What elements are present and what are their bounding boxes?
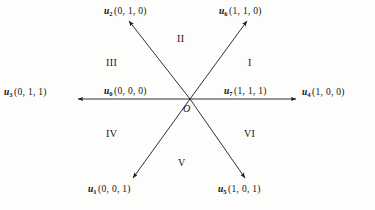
vector-symbol-u6: u6 [219, 6, 228, 16]
vector-label-u4: u4(1, 0, 0) [302, 88, 345, 98]
vector-subscript-u7: 7 [229, 90, 232, 97]
vector-label-u5: u5(1, 0, 1) [218, 185, 261, 195]
vector-label-u3: u3(0, 1, 1) [4, 88, 47, 98]
sector-label-6: VI [244, 128, 255, 139]
vector-symbol-u4: u4 [302, 87, 311, 97]
vector-symbol-u1: u1 [88, 184, 97, 194]
vector-symbol-u0: u0 [104, 86, 113, 96]
sector-label-3: III [106, 57, 117, 68]
vector-label-u1: u1(0, 0, 1) [88, 185, 131, 195]
vector-coords-u1: (0, 0, 1) [98, 184, 131, 194]
vector-symbol-u3: u3 [4, 87, 13, 97]
sector-label-5: V [178, 157, 186, 168]
vector-coords-u5: (1, 0, 1) [228, 184, 261, 194]
sector-label-1: I [248, 57, 252, 68]
vector-label-u0: u0(0, 0, 0) [104, 87, 147, 97]
vector-subscript-u1: 1 [93, 188, 96, 195]
vector-symbol-u2: u2 [104, 6, 113, 16]
vector-coords-u3: (0, 1, 1) [14, 87, 47, 97]
vector-subscript-u2: 2 [109, 10, 112, 17]
vector-coords-u6: (1, 1, 0) [229, 6, 262, 16]
vector-coords-u4: (1, 0, 0) [312, 87, 345, 97]
vector-subscript-u5: 5 [223, 188, 226, 195]
origin-label: O [183, 103, 190, 114]
sector-label-4: IV [106, 128, 117, 139]
vector-subscript-u0: 0 [109, 90, 112, 97]
vector-symbol-u7: u7 [224, 86, 233, 96]
vector-subscript-u4: 4 [307, 91, 310, 98]
vector-subscript-u6: 6 [224, 10, 227, 17]
figure-canvas: u4 --> u2(0, 1, 0) u6(1, 1, 0) u3(0, 1, … [0, 0, 375, 210]
vector-coords-u0: (0, 0, 0) [114, 86, 147, 96]
axis-line-diagonal-u5 [190, 99, 245, 178]
vector-label-u2: u2(0, 1, 0) [104, 7, 147, 17]
sector-label-2: II [177, 33, 184, 44]
vector-label-u7: u7(1, 1, 1) [224, 87, 267, 97]
vector-subscript-u3: 3 [9, 91, 12, 98]
vector-symbol-u5: u5 [218, 184, 227, 194]
vector-coords-u7: (1, 1, 1) [234, 86, 267, 96]
vector-coords-u2: (0, 1, 0) [114, 6, 147, 16]
vector-label-u6: u6(1, 1, 0) [219, 7, 262, 17]
